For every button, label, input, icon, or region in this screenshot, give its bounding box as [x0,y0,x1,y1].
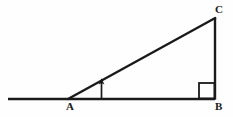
vertex-label-a: A [66,100,74,112]
vertex-label-b: B [215,100,223,112]
vertex-label-c: C [215,3,223,15]
geometry-diagram-canvas: A B C [0,0,233,117]
hypotenuse-line-ac [68,18,215,99]
right-angle-marker-icon [199,83,215,99]
triangle-figure: A B C [0,0,233,117]
